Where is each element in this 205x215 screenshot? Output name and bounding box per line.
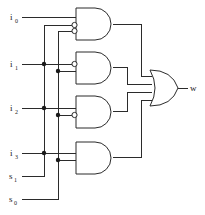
- input-label-i2: i 2: [10, 103, 18, 115]
- input-label-s1-base: s: [9, 171, 13, 181]
- input-label-i1-base: i: [10, 59, 13, 69]
- wire-gate3-to-or: [113, 100, 152, 157]
- and-gate-3[interactable]: [76, 142, 111, 174]
- input-label-i0: i 0: [10, 12, 18, 24]
- junction-s1-i1: [42, 62, 46, 66]
- wire-bus-s0: [22, 31, 58, 199]
- wire-gate0-to-or: [113, 24, 152, 76]
- and-gate-1-body: [76, 52, 111, 84]
- input-label-i3: i 3: [10, 148, 18, 160]
- or-gate[interactable]: [150, 70, 178, 106]
- wire-gate2-to-or: [113, 92, 152, 111]
- junction-s1-i3: [42, 151, 46, 155]
- and-gate-0-body: [76, 8, 111, 40]
- and-gate-3-body: [76, 142, 111, 174]
- input-label-i0-subscript: 0: [15, 18, 18, 24]
- and-gate-2[interactable]: [72, 96, 111, 128]
- logic-circuit-diagram: i 0 i 1 i 2 i 3 s 1 s 0: [0, 0, 205, 215]
- circuit-canvas: i 0 i 1 i 2 i 3 s 1 s 0: [0, 0, 205, 215]
- input-label-i3-base: i: [10, 148, 13, 158]
- junction-s0-i1: [56, 69, 60, 73]
- output-label-w: w: [190, 83, 197, 93]
- and-gate-0[interactable]: [72, 8, 111, 40]
- junction-layer: [42, 62, 60, 162]
- and-gate-2-bubble-s0: [72, 112, 77, 117]
- input-label-s1: s 1: [9, 171, 17, 183]
- input-label-s0: s 0: [9, 194, 17, 206]
- input-label-s1-subscript: 1: [14, 177, 17, 183]
- input-label-s0-subscript: 0: [14, 200, 17, 206]
- input-label-i1-subscript: 1: [15, 65, 18, 71]
- junction-s1-i2: [42, 106, 46, 110]
- junction-s0-i3: [56, 158, 60, 162]
- input-label-s0-base: s: [9, 194, 13, 204]
- junction-s0-i2: [56, 113, 60, 117]
- input-label-i1: i 1: [10, 59, 18, 71]
- input-label-i2-subscript: 2: [15, 109, 18, 115]
- and-gate-0-bubble-s1: [72, 22, 77, 27]
- and-gate-2-body: [76, 96, 111, 128]
- input-label-i3-subscript: 3: [15, 154, 18, 160]
- and-gate-1-bubble-s1: [72, 61, 77, 66]
- or-gate-body: [150, 70, 178, 106]
- input-label-i0-base: i: [10, 12, 13, 22]
- and-gate-1[interactable]: [72, 52, 111, 84]
- input-label-i2-base: i: [10, 103, 13, 113]
- and-gate-0-bubble-s0: [72, 28, 77, 33]
